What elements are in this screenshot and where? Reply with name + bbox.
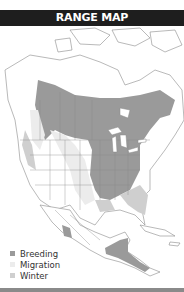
legend-label: Breeding xyxy=(20,249,58,259)
migration-swatch-icon xyxy=(10,262,15,267)
map-title: RANGE MAP xyxy=(0,10,184,26)
range-map-card: RANGE MAP xyxy=(0,0,184,290)
legend-label: Winter xyxy=(20,271,48,281)
legend-item-breeding: Breeding xyxy=(10,248,60,259)
breeding-swatch-icon xyxy=(10,251,15,256)
legend-item-winter: Winter xyxy=(10,270,60,281)
winter-swatch-icon xyxy=(10,273,15,278)
bottom-border xyxy=(0,288,184,292)
legend-item-migration: Migration xyxy=(10,259,60,270)
legend-label: Migration xyxy=(20,260,60,270)
map-legend: Breeding Migration Winter xyxy=(10,248,60,281)
